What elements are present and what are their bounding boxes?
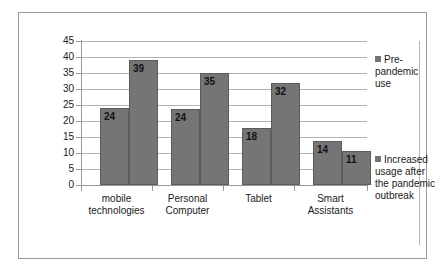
y-tick-label-30: 30 [54,84,74,94]
y-tick-label-45: 45 [54,36,74,46]
bar-value-label-g0s1: 39 [133,64,144,74]
y-tick-label-20: 20 [54,116,74,126]
y-tick-label-0: 0 [54,180,74,190]
legend-label-increased-usage: Increased usage after the pandemic outbr… [375,154,435,201]
x-tick-mark-2 [223,186,224,191]
legend-swatch-icon [375,56,381,62]
x-tick-mark-4 [367,186,368,191]
x-tick-mark-3 [294,186,295,191]
y-tick-label-25: 25 [54,100,74,110]
x-tick-mark-0 [81,186,82,191]
legend-swatch-icon [375,156,381,162]
gridline-45 [81,41,367,42]
y-tick-label-10: 10 [54,148,74,158]
y-axis-labels: 45 40 35 30 25 20 15 10 5 0 [52,13,74,260]
plot-area: 24 39 24 35 18 32 14 11 [81,41,367,185]
y-axis-line [81,40,82,186]
x-category-label-smart-assistants: Smart Assistants [294,193,367,217]
legend-label-pre-pandemic-use: Pre-pandemic use [375,54,418,89]
chart-frame: 45 40 35 30 25 20 15 10 5 0 24 39 [18,12,427,259]
y-tick-label-5: 5 [54,164,74,174]
bar-value-label-g1s0: 24 [175,113,186,123]
bar-value-label-g2s1: 32 [275,87,286,97]
x-axis-line [81,185,368,186]
x-category-label-mobile-technologies: mobile technologies [81,193,152,217]
bar-value-label-g0s0: 24 [104,112,115,122]
x-category-label-tablet: Tablet [223,193,294,205]
y-tick-label-40: 40 [54,52,74,62]
bar-value-label-g3s1: 11 [346,155,357,165]
bar-mobile-technologies-increased[interactable] [129,60,158,185]
bar-value-label-g3s0: 14 [317,145,328,155]
bar-tablet-increased[interactable] [271,83,300,185]
x-tick-mark-1 [152,186,153,191]
y-tick-label-35: 35 [54,68,74,78]
bar-personal-computer-increased[interactable] [200,73,229,185]
bar-value-label-g2s0: 18 [246,132,257,142]
gridline-40 [81,57,367,58]
x-category-label-personal-computer: Personal Computer [152,193,223,217]
bar-value-label-g1s1: 35 [204,77,215,87]
legend-entry-pre-pandemic-use[interactable]: Pre-pandemic use [375,54,437,90]
y-tick-label-15: 15 [54,132,74,142]
legend-entry-increased-usage[interactable]: Increased usage after the pandemic outbr… [375,154,437,202]
